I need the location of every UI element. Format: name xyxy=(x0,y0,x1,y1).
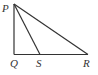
label-s: S xyxy=(36,57,42,69)
segment-ps xyxy=(14,4,40,55)
triangle-diagram: P Q S R xyxy=(0,0,98,75)
label-q: Q xyxy=(10,57,18,69)
label-r: R xyxy=(82,57,90,69)
segment-pr xyxy=(14,4,88,55)
label-p: P xyxy=(1,2,9,14)
